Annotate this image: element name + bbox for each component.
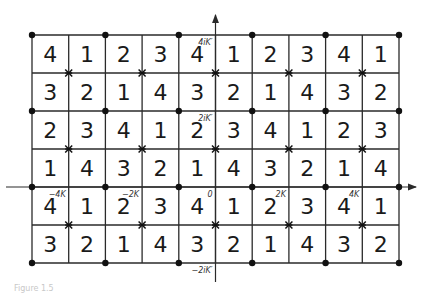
- dot-marker: [249, 184, 255, 190]
- dot-marker: [29, 108, 35, 114]
- dot-marker: [29, 260, 35, 266]
- cell-value: 4: [117, 118, 131, 143]
- cell-value: 3: [43, 80, 57, 105]
- dot-marker: [396, 184, 402, 190]
- bleed-through-caption: Figure 1.5: [14, 284, 54, 293]
- dot-marker: [396, 260, 402, 266]
- cell-value: 2: [80, 232, 94, 257]
- cell-value: 3: [190, 232, 204, 257]
- dot-marker: [322, 184, 328, 190]
- cell-value: 3: [374, 118, 388, 143]
- real-axis-label: 0: [207, 190, 212, 199]
- cell-value: 3: [80, 118, 94, 143]
- cell-value: 2: [337, 118, 351, 143]
- cell-value: 2: [374, 80, 388, 105]
- dot-marker: [322, 108, 328, 114]
- cell-value: 4: [227, 156, 241, 181]
- cell-value: 1: [43, 156, 57, 181]
- cell-value: 2: [264, 42, 278, 67]
- cell-value: 3: [153, 42, 167, 67]
- cell-value: 4: [153, 232, 167, 257]
- imaginary-axis-label: 2iK′: [198, 114, 213, 123]
- cell-value: 3: [190, 80, 204, 105]
- cell-value: 4: [300, 80, 314, 105]
- cell-value: 3: [227, 118, 241, 143]
- cell-value: 3: [300, 194, 314, 219]
- dot-marker: [249, 32, 255, 38]
- dot-marker: [176, 32, 182, 38]
- cell-value: 4: [153, 80, 167, 105]
- cell-value: 2: [153, 156, 167, 181]
- real-axis-label: −4K: [49, 190, 67, 199]
- real-axis-label: −2K: [122, 190, 140, 199]
- cell-value: 3: [117, 156, 131, 181]
- cell-value: 4: [264, 118, 278, 143]
- cell-value: 1: [117, 232, 131, 257]
- cell-value: 4: [190, 194, 204, 219]
- cell-value: 2: [227, 232, 241, 257]
- dot-marker: [176, 260, 182, 266]
- dot-marker: [102, 260, 108, 266]
- dot-marker: [322, 260, 328, 266]
- cell-value: 1: [80, 194, 94, 219]
- dot-marker: [396, 32, 402, 38]
- dot-marker: [176, 184, 182, 190]
- cell-value: 3: [300, 42, 314, 67]
- dot-marker: [29, 32, 35, 38]
- cell-value: 1: [153, 118, 167, 143]
- cell-value: 2: [374, 232, 388, 257]
- dot-marker: [249, 108, 255, 114]
- cell-value: 3: [337, 80, 351, 105]
- imaginary-axis-label: −2iK′: [191, 266, 212, 275]
- cell-value: 3: [153, 194, 167, 219]
- cell-value: 3: [337, 232, 351, 257]
- dot-marker: [102, 108, 108, 114]
- cell-value: 4: [300, 232, 314, 257]
- real-axis-label: 2K: [276, 190, 287, 199]
- cell-value: 4: [43, 42, 57, 67]
- cell-value: 1: [227, 42, 241, 67]
- cell-value: 1: [337, 156, 351, 181]
- dot-marker: [249, 260, 255, 266]
- cell-value: 1: [264, 80, 278, 105]
- cell-value: 1: [374, 194, 388, 219]
- cell-value: 3: [264, 156, 278, 181]
- cell-value: 2: [227, 80, 241, 105]
- imaginary-axis-label: 4iK′: [198, 38, 213, 47]
- dot-marker: [102, 184, 108, 190]
- cell-value: 2: [117, 42, 131, 67]
- dot-marker: [176, 108, 182, 114]
- cell-value: 2: [43, 118, 57, 143]
- cell-value: 2: [80, 80, 94, 105]
- cell-value: 1: [80, 42, 94, 67]
- cell-value: 1: [190, 156, 204, 181]
- cell-value: 1: [117, 80, 131, 105]
- cell-value: 1: [300, 118, 314, 143]
- cell-value: 4: [80, 156, 94, 181]
- cell-value: 1: [264, 232, 278, 257]
- cell-value: 1: [227, 194, 241, 219]
- real-axis-label: 4K: [349, 190, 360, 199]
- cell-value: 4: [374, 156, 388, 181]
- cell-value: 1: [374, 42, 388, 67]
- lattice-diagram: 4123412341321432143223412341231432143214…: [0, 0, 431, 294]
- cell-value: 3: [43, 232, 57, 257]
- dot-marker: [322, 32, 328, 38]
- dot-marker: [29, 184, 35, 190]
- cell-value: 4: [337, 42, 351, 67]
- dot-marker: [396, 108, 402, 114]
- cell-value: 2: [300, 156, 314, 181]
- dot-marker: [102, 32, 108, 38]
